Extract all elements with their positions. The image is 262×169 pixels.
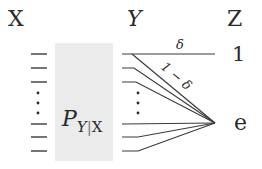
output-ellipsis-dots xyxy=(137,92,140,115)
input-ellipsis-dots xyxy=(37,92,40,115)
output-erasure-label: e xyxy=(234,112,247,134)
output-one-label: 1 xyxy=(232,44,245,65)
erasure-channel-diagram: X Y Z PY|X xyxy=(0,0,262,169)
diagram-lines: δ 1 − δ xyxy=(0,0,262,169)
delta-edge-label: δ xyxy=(176,37,184,52)
